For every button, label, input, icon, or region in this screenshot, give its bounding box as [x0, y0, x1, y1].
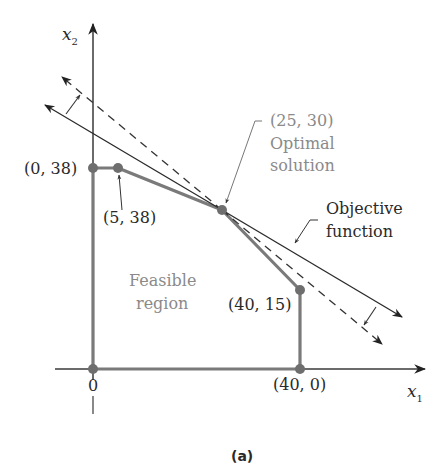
objective-line-solid-left [45, 105, 222, 210]
vertex-40-15 [295, 285, 305, 295]
vertex-0-0 [88, 364, 98, 374]
vertex-0-38 [88, 163, 98, 173]
optimal-label-line2: solution [270, 158, 335, 174]
linear-programming-figure: x2 x1 0 (0, 38) (5, 38) (40, 15) (40, 0)… [0, 0, 447, 474]
feasible-label-line1: Feasible [129, 273, 196, 289]
vertex-label-40-15: (40, 15) [228, 297, 291, 313]
optimal-label-line1: Optimal [270, 136, 335, 152]
x-axis-label: x1 [407, 383, 423, 400]
objective-label-line1: Objective [326, 201, 403, 217]
objective-line-dashed-left [62, 77, 222, 210]
vertex-label-0-38: (0, 38) [24, 161, 77, 177]
vertex-40-0 [295, 364, 305, 374]
vertex-25-30 [217, 205, 227, 215]
vertex-5-38 [113, 163, 123, 173]
optimal-point-label: (25, 30) [270, 113, 333, 129]
objective-label-line2: function [326, 224, 393, 240]
rotation-arrow-left [66, 95, 80, 114]
figure-caption: (a) [231, 449, 253, 463]
rotation-arrow-right [364, 307, 376, 325]
y-axis-label: x2 [62, 26, 78, 43]
feasible-region-boundary [93, 168, 300, 369]
vertex-label-5-38: (5, 38) [103, 210, 156, 226]
origin-label: 0 [88, 378, 98, 394]
vertex-label-40-0: (40, 0) [273, 377, 326, 393]
feasible-label-line2: region [136, 296, 188, 312]
